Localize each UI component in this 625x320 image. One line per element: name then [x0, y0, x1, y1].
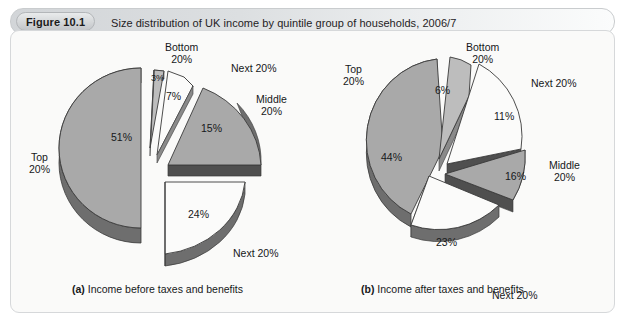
label-middle-20-b: Middle 20% [549, 159, 580, 183]
label-bottom-20-line2-b: 20% [472, 53, 493, 65]
caption-a-marker: (a) [72, 283, 85, 295]
value-top-20-a: 51% [111, 131, 132, 143]
value-next-20-lower-a: 24% [188, 208, 209, 220]
charts-stage: Bottom 20% Next 20% Middle 20% Top 20% N… [11, 31, 614, 312]
value-next-20-lower-b: 23% [436, 236, 457, 248]
label-bottom-20-line1-a: Bottom [165, 41, 198, 53]
label-next-20-upper-a: Next 20% [231, 62, 277, 74]
label-bottom-20-line2-a: 20% [171, 53, 192, 65]
label-middle-20-line1-a: Middle [256, 93, 287, 105]
caption-b-marker: (b) [361, 283, 374, 295]
label-top-20-line2-a: 20% [29, 163, 50, 175]
label-top-20-line2-b: 20% [343, 75, 364, 87]
label-top-20-line1-a: Top [31, 151, 48, 163]
caption-a-text: Income before taxes and benefits [88, 283, 243, 295]
value-next-20-upper-b: 11% [494, 110, 514, 122]
figure-number-badge: Figure 10.1 [16, 12, 95, 31]
label-middle-20-line2-a: 20% [261, 105, 282, 117]
caption-a: (a) Income before taxes and benefits [72, 283, 243, 295]
caption-b-text: Income after taxes and benefits [377, 283, 524, 295]
value-bottom-20-a: 3% [151, 72, 164, 84]
label-middle-20-a: Middle 20% [256, 93, 287, 117]
label-next-20-lower-a: Next 20% [233, 247, 279, 259]
slice-top-20 [59, 68, 141, 243]
label-next-20-upper-b: Next 20% [531, 77, 577, 89]
caption-b: (b) Income after taxes and benefits [361, 283, 524, 295]
label-bottom-20-b: Bottom 20% [466, 41, 499, 65]
value-next-20-upper-a: 7% [166, 90, 181, 102]
label-top-20-a: Top 20% [29, 151, 50, 175]
label-middle-20-line1-b: Middle [549, 159, 580, 171]
label-top-20-line1-b: Top [345, 63, 362, 75]
label-bottom-20-a: Bottom 20% [165, 41, 198, 65]
label-top-20-b: Top 20% [343, 63, 364, 87]
label-middle-20-line2-b: 20% [554, 171, 575, 183]
value-middle-20-a: 15% [201, 122, 222, 134]
figure-10-1: Figure 10.1 Size distribution of UK inco… [0, 0, 625, 320]
value-top-20-b: 44% [381, 151, 402, 163]
value-middle-20-b: 16% [505, 170, 526, 182]
figure-body-panel: Bottom 20% Next 20% Middle 20% Top 20% N… [10, 30, 615, 313]
label-bottom-20-line1-b: Bottom [466, 41, 499, 53]
value-bottom-20-b: 6% [435, 84, 450, 96]
